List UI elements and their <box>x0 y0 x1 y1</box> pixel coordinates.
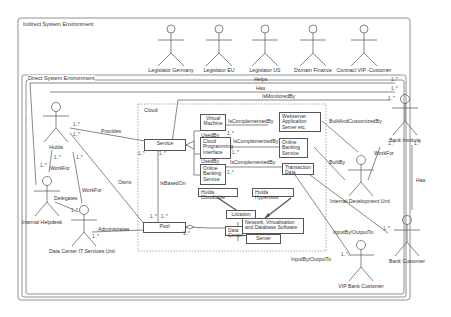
mult: 1..* <box>71 208 78 213</box>
class-virtual-machine: Virtual Machine <box>200 114 226 131</box>
assoc-helps: Helps <box>254 77 267 82</box>
mult: 1..* <box>40 163 47 168</box>
mult: 1..* <box>391 86 398 91</box>
assoc-built-and-customized-by: BuiltAndCustomizedBy <box>329 119 382 124</box>
assoc-used-by-1: UsedBy <box>201 133 219 138</box>
actor-legislator-eu <box>206 25 232 66</box>
diagram-canvas: Indirect System Environment Direct Syste… <box>0 0 451 317</box>
mult: 1..* <box>73 132 80 137</box>
actor-name-hulda: Hulda <box>49 144 63 150</box>
actor-legislator-us <box>252 25 278 66</box>
actor-internal-dev-unit <box>348 156 374 197</box>
mult: 1..* <box>341 252 348 257</box>
class-hulda-hypervisor: Hulda Hypervisor <box>252 188 294 197</box>
mult: 1..* <box>383 226 390 231</box>
assoc-used-by-2: UsedBy <box>201 159 219 164</box>
mult: 1..* <box>391 77 398 82</box>
class-online-banking-service-right: Online Banking Service <box>279 138 308 158</box>
mult: 1..* <box>388 141 395 146</box>
assoc-work-for-2: WorkFor <box>82 188 102 193</box>
assoc-has-right: Has <box>416 178 425 183</box>
mult: 1..* <box>161 214 168 219</box>
actor-hulda <box>43 103 69 143</box>
indirect-env-title: Indirect System Environment <box>23 21 93 27</box>
mult: 1..* <box>138 151 145 156</box>
mult: 1..* <box>414 141 421 146</box>
class-webserver: Webserver Application Server etc. <box>279 112 321 132</box>
assoc-work-for-3: WorkFor <box>374 151 394 156</box>
mult: 1..* <box>73 122 80 127</box>
assoc-provides: Provides <box>101 129 121 134</box>
actor-name-vip-bank-customer: VIP Bank Customer <box>338 283 383 289</box>
actor-bank-customer <box>394 216 420 257</box>
class-service: Service <box>144 139 186 151</box>
assoc-is-complemented-by-2: IsComplementedBy <box>233 139 278 144</box>
mult: 1..* <box>227 170 234 175</box>
mult: 1..* <box>54 155 61 160</box>
actor-domain-finance <box>300 25 326 66</box>
assoc-administrates: Administrates <box>98 227 129 232</box>
actor-name-legislator-us: Legislator US <box>249 67 280 73</box>
actor-name-domain-finance: Domain Finance <box>294 67 332 73</box>
assoc-built-by: BuiltBy <box>329 160 345 165</box>
assoc-is-complemented-by-3: IsComplementedBy <box>230 160 275 165</box>
mult: 1..* <box>76 155 83 160</box>
assoc-has-top: Has <box>256 86 265 91</box>
actor-name-legislator-eu: Legislator EU <box>203 67 234 73</box>
actor-name-internal-helpdesk: Internal Helpdesk <box>22 219 62 225</box>
class-cloud-programming-interface: Cloud Programming Interface <box>200 137 231 159</box>
assoc-delegates: Delegates <box>54 196 77 201</box>
assoc-is-complemented-by-1: IsComplementedBy <box>228 119 273 124</box>
class-transaction-data: Transaction Data <box>282 163 314 175</box>
class-online-banking-service-left: Online Banking Service <box>200 164 226 185</box>
assoc-is-monitored-by: IsMonitoredBy <box>262 94 295 99</box>
actor-name-contract-vip: Contract VIP -Customer <box>337 67 392 73</box>
direct-env-frame <box>22 75 406 297</box>
class-network-software: Network, Virtualisation and Database Sof… <box>242 218 304 234</box>
mult: 1..* <box>232 150 239 155</box>
actor-name-bank-customer: Bank Customer <box>389 258 425 264</box>
actor-vip-bank-customer <box>348 241 374 282</box>
actor-name-dc-it-services: Data Center IT Services Unit <box>49 248 115 254</box>
mult: 1..* <box>159 151 166 156</box>
class-pool: Pool <box>143 222 186 233</box>
mult: 1..* <box>150 214 157 219</box>
actor-name-internal-dev-unit: Internal Development Unit <box>330 198 390 204</box>
assoc-input-output-1: InputBy/OutputTo <box>333 230 373 235</box>
assoc-owns: Owns <box>118 180 131 185</box>
class-server: Server <box>246 234 281 244</box>
cloud-title: Cloud <box>144 108 158 113</box>
actor-name-legislator-germany: Legislator Germany <box>148 67 193 73</box>
assoc-input-output-2: InputBy/OutputTo <box>291 257 331 262</box>
assoc-is-based-on: IsBasedOn <box>160 181 186 186</box>
mult: 1..* <box>388 96 395 101</box>
assoc-work-for-1: WorkFor <box>50 166 70 171</box>
class-hulda-cloudtable: Hulda Cloudtable <box>198 188 238 197</box>
direct-env-title: Direct System Environment <box>28 75 95 81</box>
mult: 1..* <box>183 231 190 236</box>
actor-contract-vip <box>351 25 377 66</box>
mult: 1..* <box>92 234 99 239</box>
mult: 1..* <box>227 131 234 136</box>
actor-bank-institute <box>392 95 418 136</box>
actor-legislator-germany <box>158 25 184 66</box>
